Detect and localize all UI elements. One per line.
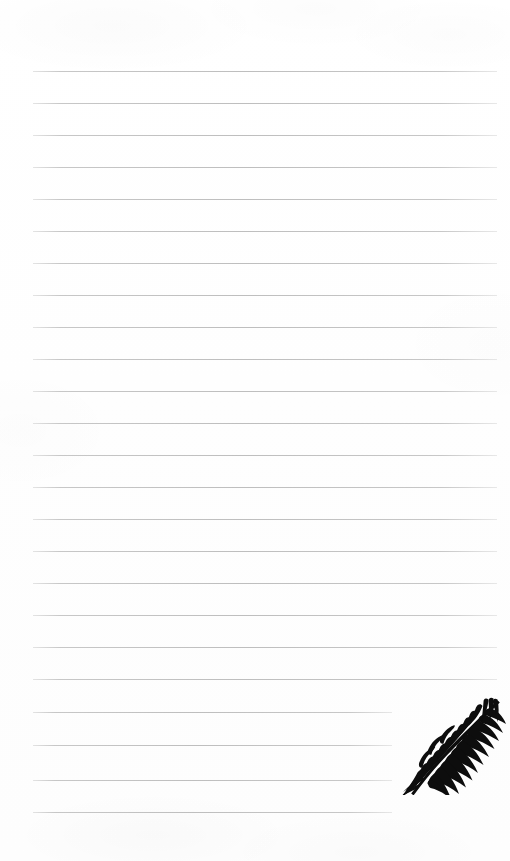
rule-line bbox=[33, 199, 497, 200]
rule-line bbox=[33, 295, 497, 296]
rule-line bbox=[33, 103, 497, 104]
rule-line bbox=[33, 812, 392, 813]
notepad-page bbox=[0, 0, 510, 861]
rule-line bbox=[33, 745, 392, 746]
rule-line bbox=[33, 679, 497, 680]
rule-line bbox=[33, 359, 497, 360]
rule-line bbox=[33, 455, 497, 456]
palm-frond-shape bbox=[400, 698, 507, 795]
rule-line bbox=[33, 519, 497, 520]
rule-line bbox=[33, 71, 497, 72]
rule-line bbox=[33, 551, 497, 552]
rule-line bbox=[33, 712, 392, 713]
rule-line bbox=[33, 780, 392, 781]
rule-line bbox=[33, 327, 497, 328]
rule-line bbox=[33, 647, 497, 648]
rule-line bbox=[33, 231, 497, 232]
rule-line bbox=[33, 615, 497, 616]
rule-line bbox=[33, 135, 497, 136]
rule-line bbox=[33, 391, 497, 392]
rule-line bbox=[33, 167, 497, 168]
palm-frond-illustration bbox=[398, 697, 508, 795]
rule-line bbox=[33, 583, 497, 584]
rule-line bbox=[33, 263, 497, 264]
rule-line bbox=[33, 487, 497, 488]
rule-line bbox=[33, 423, 497, 424]
